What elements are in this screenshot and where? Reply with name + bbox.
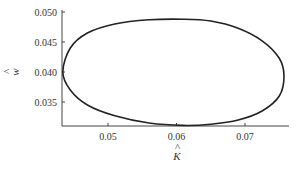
y-tick-label: 0.045 <box>35 37 58 48</box>
y-tick-label: 0.050 <box>35 7 58 18</box>
x-tick-label: 0.05 <box>99 131 117 142</box>
y-axis-label: w ^ <box>1 68 21 76</box>
svg-text:K: K <box>172 150 181 162</box>
chart: 0.050.060.070.0500.0450.0400.035 ^ K w ^ <box>0 0 300 177</box>
y-tick-label: 0.035 <box>35 97 58 108</box>
orbit-curve <box>63 19 284 125</box>
y-tick-label: 0.040 <box>35 67 58 78</box>
x-axis-label: ^ K <box>172 141 181 162</box>
x-tick-label: 0.07 <box>236 131 254 142</box>
